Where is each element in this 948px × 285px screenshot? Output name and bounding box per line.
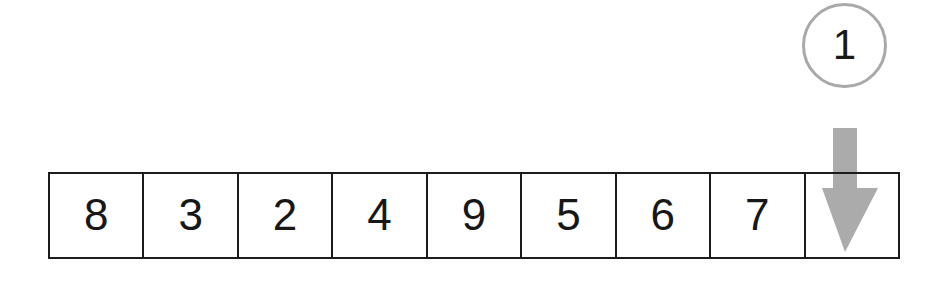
array-cell[interactable]: 3 <box>144 174 238 257</box>
array-cell[interactable]: 8 <box>50 174 144 257</box>
array-cell-value: 2 <box>273 193 297 237</box>
array-cell[interactable]: 9 <box>428 174 522 257</box>
array-cell[interactable]: 2 <box>239 174 333 257</box>
array-insertion-diagram: 1 8 3 2 4 9 5 6 7 <box>0 0 948 285</box>
array-cell[interactable]: 7 <box>711 174 805 257</box>
array-cell-value: 9 <box>462 193 486 237</box>
array-cell-empty[interactable] <box>806 174 900 257</box>
array-cell[interactable]: 4 <box>333 174 427 257</box>
array-cell[interactable]: 6 <box>617 174 711 257</box>
array-cell-value: 8 <box>84 193 108 237</box>
step-badge-label: 1 <box>833 24 856 66</box>
array-cell-value: 5 <box>556 193 580 237</box>
array-cell-value: 3 <box>178 193 202 237</box>
step-badge: 1 <box>802 3 887 88</box>
array-cell-value: 7 <box>745 193 769 237</box>
array-cell[interactable]: 5 <box>522 174 616 257</box>
array-cell-value: 6 <box>651 193 675 237</box>
array-row: 8 3 2 4 9 5 6 7 <box>48 172 900 259</box>
array-cell-value: 4 <box>367 193 391 237</box>
